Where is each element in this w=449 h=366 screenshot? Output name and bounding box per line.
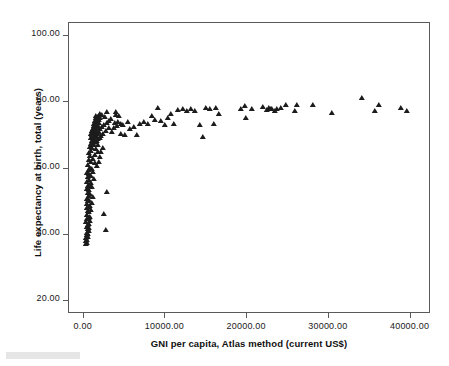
data-point xyxy=(398,105,404,110)
x-tick-label: 10000.00 xyxy=(145,321,184,332)
data-point xyxy=(292,108,298,113)
data-point xyxy=(192,108,198,113)
plot-area xyxy=(68,22,430,313)
x-tick-mark xyxy=(83,313,84,318)
data-point xyxy=(197,122,203,127)
x-tick-mark xyxy=(410,313,411,318)
data-point xyxy=(100,145,106,150)
data-point xyxy=(168,111,174,116)
x-tick-label: 30000.00 xyxy=(308,321,347,332)
data-point-layer xyxy=(69,23,429,312)
data-point xyxy=(152,117,158,122)
data-point xyxy=(329,110,335,115)
data-point xyxy=(102,114,108,119)
data-point xyxy=(171,121,177,126)
data-point xyxy=(404,108,410,113)
data-point xyxy=(103,227,109,232)
y-axis-title: Life expectancy at birth, total (years) xyxy=(32,43,43,303)
data-point xyxy=(101,211,107,216)
data-point xyxy=(243,115,249,120)
x-tick-label: 20000.00 xyxy=(227,321,266,332)
data-point xyxy=(215,111,221,116)
data-point xyxy=(134,132,140,137)
data-point xyxy=(165,115,171,120)
x-tick-mark xyxy=(246,313,247,318)
x-tick-label: 40000.00 xyxy=(390,321,429,332)
data-point xyxy=(372,108,378,113)
data-point xyxy=(200,134,206,139)
data-point xyxy=(249,106,255,111)
data-point xyxy=(206,106,212,111)
data-point xyxy=(241,103,247,108)
data-point xyxy=(294,102,300,107)
data-point xyxy=(283,102,289,107)
x-tick-mark xyxy=(328,313,329,318)
data-point xyxy=(104,109,110,114)
data-point xyxy=(210,121,216,126)
data-point xyxy=(358,95,364,100)
data-point xyxy=(104,189,110,194)
x-tick-label: 0.00 xyxy=(74,321,92,332)
data-point xyxy=(213,105,219,110)
data-point xyxy=(95,159,101,164)
scatter-chart: 20.0040.0060.0080.00100.00 0.0010000.002… xyxy=(0,0,449,366)
data-point xyxy=(161,122,167,127)
y-tick-label: 100.00 xyxy=(31,28,60,39)
data-point xyxy=(112,112,118,117)
data-point xyxy=(122,132,128,137)
data-point xyxy=(375,102,381,107)
x-axis-title: GNI per capita, Atlas method (current US… xyxy=(68,338,430,349)
x-tick-mark xyxy=(164,313,165,318)
data-point xyxy=(145,121,151,126)
data-point xyxy=(130,124,136,129)
data-point xyxy=(155,105,161,110)
data-point xyxy=(109,129,115,134)
scan-artifact xyxy=(6,352,80,359)
data-point xyxy=(310,102,316,107)
